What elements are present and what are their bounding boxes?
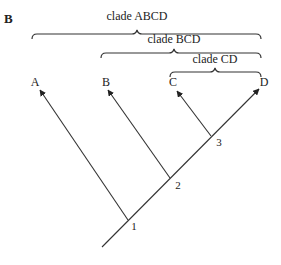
clade-abcd-label: clade ABCD	[107, 9, 168, 23]
clade-cd-brace	[170, 68, 261, 77]
cladogram: B clade ABCD clade BCD clade CD A B C D …	[0, 0, 281, 265]
node-2-label: 2	[175, 179, 181, 191]
taxon-d-label: D	[260, 75, 269, 89]
node-1-label: 1	[131, 220, 137, 232]
branch-c	[177, 91, 211, 136]
panel-label: B	[4, 11, 13, 26]
taxon-b-label: B	[102, 75, 110, 89]
node-3-label: 3	[216, 136, 222, 148]
clade-abcd-brace	[32, 30, 261, 39]
clade-cd-label: clade CD	[193, 52, 238, 66]
root-to-d-branch	[102, 89, 259, 247]
taxon-c-label: C	[169, 75, 177, 89]
branch-b	[108, 90, 170, 178]
taxon-a-label: A	[31, 75, 40, 89]
branch-a	[40, 90, 128, 220]
